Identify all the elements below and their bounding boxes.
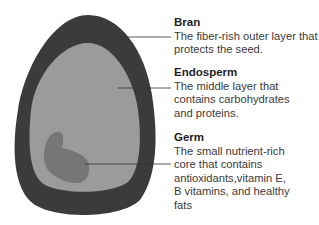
endosperm-title: Endosperm [174, 66, 299, 80]
endosperm-description: The middle layer that contains carbohydr… [174, 80, 299, 121]
bran-description: The fiber-rish outer layer that protects… [174, 30, 319, 57]
germ-title: Germ [174, 131, 296, 145]
bran-title: Bran [174, 16, 319, 30]
germ-description: The small nutrient-rich core that contai… [174, 145, 296, 213]
germ-label: Germ The small nutrient-rich core that c… [174, 131, 296, 213]
endosperm-label: Endosperm The middle layer that contains… [174, 66, 299, 120]
bran-label: Bran The fiber-rish outer layer that pro… [174, 16, 319, 57]
